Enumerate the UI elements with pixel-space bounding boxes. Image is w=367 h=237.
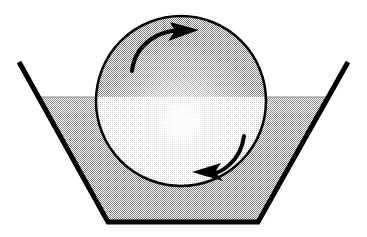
- figure-root: Rotating sphere partially submerged in l…: [0, 0, 367, 237]
- diagram-canvas: [0, 0, 367, 237]
